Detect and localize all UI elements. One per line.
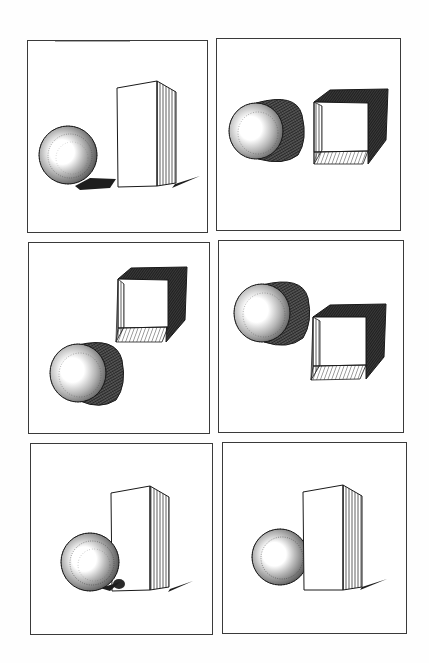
panel-3: [28, 242, 210, 434]
panel-1: [27, 40, 208, 233]
panel-5: [30, 443, 213, 635]
illustration-page: [0, 0, 429, 663]
panel-2: [216, 38, 401, 231]
panel-4: [218, 240, 404, 433]
panel-6: [222, 442, 407, 634]
